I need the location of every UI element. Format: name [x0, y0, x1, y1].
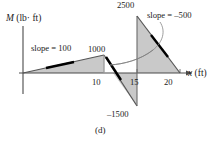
x-axis-label: x (ft)	[188, 69, 207, 79]
value-label-negative-1500: –1500	[107, 110, 128, 119]
annotation-slope-100: slope = 100	[31, 44, 71, 53]
value-label-1000: 1000	[88, 45, 105, 54]
x-tick-label-20: 20	[164, 78, 173, 87]
value-label-2500: 2500	[117, 1, 134, 10]
annotation-slope-negative-500: slope = –500	[147, 11, 191, 20]
x-tick-label-15: 15	[130, 78, 139, 87]
bending-moment-diagram-figure: M (lb· ft) x (ft) slope = 100 slope = –5…	[0, 0, 216, 143]
y-axis-label: M (lb· ft)	[6, 14, 41, 24]
y-axis-label-symbol: M	[6, 13, 14, 23]
x-tick-label-10: 10	[92, 78, 101, 87]
x-axis-label-symbol: x	[188, 68, 192, 78]
figure-caption: (d)	[95, 126, 106, 135]
y-axis-label-unit: (lb· ft)	[16, 13, 41, 23]
x-axis-label-unit: (ft)	[195, 68, 207, 78]
slope-drop-emphasis-segment	[106, 57, 121, 80]
